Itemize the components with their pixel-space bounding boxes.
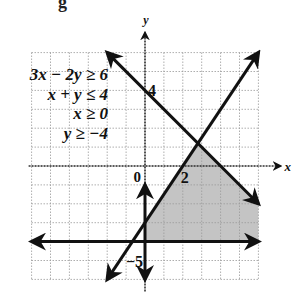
inequality-graph: xy042−53x − 2y ≥ 6x + y ≤ 4x ≥ 0y ≥ −4: [0, 0, 297, 299]
tick-label-y-neg: −5: [126, 253, 143, 270]
origin-label: 0: [134, 169, 142, 185]
y-axis-label: y: [141, 13, 149, 27]
inequality-2: x + y ≤ 4: [46, 85, 108, 104]
tick-label-y-4: 4: [148, 82, 156, 99]
x-axis-label: x: [283, 159, 291, 174]
tick-label-x-2: 2: [181, 169, 189, 186]
inequality-3: x ≥ 0: [72, 104, 108, 123]
inequality-4: y ≥ −4: [62, 124, 108, 143]
inequality-1: 3x − 2y ≥ 6: [29, 65, 109, 84]
